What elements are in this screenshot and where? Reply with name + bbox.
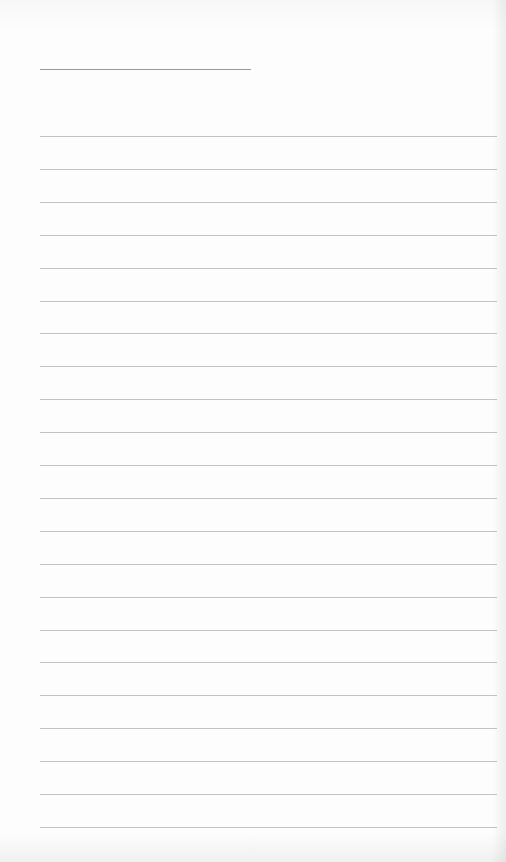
ruled-line [40,432,497,433]
ruled-line [40,761,497,762]
ruled-line [40,202,497,203]
ruled-line [40,465,497,466]
ruled-line [40,531,497,532]
ruled-line [40,794,497,795]
ruled-line [40,136,497,137]
ruled-line [40,630,497,631]
ruled-line [40,728,497,729]
ruled-line [40,169,497,170]
ruled-line [40,366,497,367]
ruled-line [40,827,497,828]
lined-paper-sheet [0,0,506,862]
ruled-line [40,399,497,400]
ruled-line [40,662,497,663]
ruled-line [40,268,497,269]
ruled-line [40,564,497,565]
ruled-line [40,235,497,236]
ruled-line [40,333,497,334]
ruled-line [40,695,497,696]
ruled-line [40,301,497,302]
title-line [40,69,251,70]
ruled-line [40,597,497,598]
ruled-line [40,498,497,499]
